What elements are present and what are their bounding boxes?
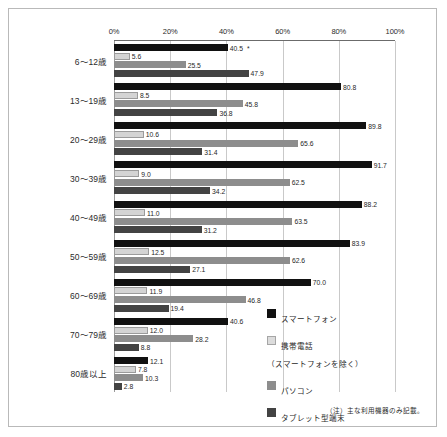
legend-item[interactable]: 携帯電話（スマートフォンを除く） [267, 335, 395, 371]
bar-value-label: 88.2 [364, 201, 377, 208]
bar-value-label: 10.3 [145, 374, 158, 381]
bar-3[interactable] [114, 148, 202, 155]
x-axis-tick-20: 20% [163, 27, 178, 36]
bar-3[interactable] [114, 266, 190, 273]
bar-0[interactable] [114, 201, 362, 208]
bar-3[interactable] [114, 109, 217, 116]
bar-value-label: 46.8 [248, 296, 261, 303]
bar-row: 63.5 [114, 218, 292, 225]
bar-0[interactable] [114, 161, 372, 168]
bar-3[interactable] [114, 383, 122, 390]
bar-1[interactable] [114, 92, 138, 99]
bar-value-label: 31.2 [204, 226, 217, 233]
bar-row: 65.6 [114, 140, 298, 147]
legend-label: 携帯電話（スマートフォンを除く） [267, 342, 363, 369]
bar-row: 27.1 [114, 266, 190, 273]
bar-2[interactable] [114, 179, 290, 186]
bar-row: 12.5 [114, 248, 149, 255]
bar-2[interactable] [114, 140, 298, 147]
bar-1[interactable] [114, 327, 148, 334]
bar-value-label: 83.9 [352, 240, 365, 247]
bar-value-label: 12.0 [150, 327, 163, 334]
bar-value-label: 89.8 [368, 122, 381, 129]
bar-row: 47.9 [114, 70, 249, 77]
y-axis-category-label: 20〜29歳 [70, 133, 107, 145]
chart-footnote: （注）主な利用機器のみ記載。 [9, 405, 424, 415]
y-axis-category-label: 40〜49歳 [70, 211, 107, 223]
bar-2[interactable] [114, 335, 193, 342]
bar-2[interactable] [114, 100, 243, 107]
x-axis-tick-labels: 0%20%40%60%80%100% [114, 27, 395, 39]
bar-row: 2.8 [114, 383, 122, 390]
bar-value-label: 34.2 [212, 187, 225, 194]
bar-2[interactable] [114, 61, 186, 68]
bar-row: 8.8 [114, 344, 139, 351]
bar-group: 50〜59歳83.912.562.627.1 [114, 237, 395, 276]
bar-value-label: 12.5 [151, 248, 164, 255]
bar-0[interactable] [114, 279, 311, 286]
bar-1[interactable] [114, 170, 139, 177]
bar-1[interactable] [114, 131, 144, 138]
x-axis-tick-100: 100% [386, 27, 405, 36]
bar-row: 40.6 [114, 318, 228, 325]
y-axis-category-label: 50〜59歳 [70, 250, 107, 262]
bar-row: 11.0 [114, 209, 145, 216]
bar-1[interactable] [114, 248, 149, 255]
bar-3[interactable] [114, 70, 249, 77]
gridline-100 [395, 41, 396, 392]
x-axis-tick-80: 80% [331, 27, 346, 36]
bar-2[interactable] [114, 374, 143, 381]
bar-value-label: 31.4 [204, 148, 217, 155]
bar-value-label: 40.5* [230, 44, 250, 51]
bar-value-label: 10.6 [146, 131, 159, 138]
bar-0[interactable] [114, 44, 228, 51]
bar-row: 28.2 [114, 335, 193, 342]
bar-row: 83.9 [114, 240, 350, 247]
bar-2[interactable] [114, 296, 246, 303]
bar-1[interactable] [114, 53, 130, 60]
bar-1[interactable] [114, 287, 147, 294]
bar-row: 10.3 [114, 374, 143, 381]
bar-row: 9.0 [114, 170, 139, 177]
chart-figure: 0%20%40%60%80%100% 6〜12歳40.5*5.625.547.9… [8, 8, 437, 427]
bar-0[interactable] [114, 318, 228, 325]
bar-value-label: 62.6 [292, 257, 305, 264]
bar-0[interactable] [114, 122, 366, 129]
bar-3[interactable] [114, 226, 202, 233]
bar-value-label: 2.8 [124, 383, 133, 390]
bar-value-label: 5.6 [132, 53, 141, 60]
bar-group: 6〜12歳40.5*5.625.547.9 [114, 41, 395, 80]
bar-group: 30〜39歳91.79.062.534.2 [114, 158, 395, 197]
bar-group: 20〜29歳89.810.665.631.4 [114, 119, 395, 158]
bar-2[interactable] [114, 257, 290, 264]
bar-row: 62.5 [114, 179, 290, 186]
bar-0[interactable] [114, 357, 148, 364]
bar-row: 31.4 [114, 148, 202, 155]
bar-value-label: 63.5 [294, 218, 307, 225]
bar-1[interactable] [114, 366, 136, 373]
bar-0[interactable] [114, 83, 341, 90]
legend-item[interactable]: パソコン [267, 380, 395, 398]
bar-value-label: 62.5 [292, 179, 305, 186]
bar-row: 10.6 [114, 131, 144, 138]
bar-2[interactable] [114, 218, 292, 225]
bar-3[interactable] [114, 187, 210, 194]
bar-group: 13〜19歳80.88.545.836.8 [114, 80, 395, 119]
bar-1[interactable] [114, 209, 145, 216]
y-axis-category-label: 70〜79歳 [70, 328, 107, 340]
bar-row: 5.6 [114, 53, 130, 60]
x-axis-tick-0: 0% [109, 27, 120, 36]
bar-row: 36.8 [114, 109, 217, 116]
y-axis-category-label: 60〜69歳 [70, 289, 107, 301]
bar-row: 40.5* [114, 44, 228, 51]
bar-3[interactable] [114, 305, 169, 312]
bar-value-label: 11.9 [149, 287, 162, 294]
legend-item[interactable]: スマートフォン [267, 308, 395, 326]
x-axis-tick-60: 60% [275, 27, 290, 36]
bar-row: 80.8 [114, 83, 341, 90]
bar-group: 40〜49歳88.211.063.531.2 [114, 197, 395, 236]
bar-value-label: 9.0 [141, 170, 150, 177]
chart-legend: スマートフォン携帯電話（スマートフォンを除く）パソコンタブレット型端末 [267, 308, 395, 434]
bar-0[interactable] [114, 240, 350, 247]
bar-3[interactable] [114, 344, 139, 351]
